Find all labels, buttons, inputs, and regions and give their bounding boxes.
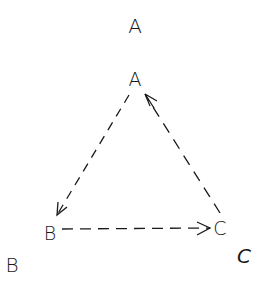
outer-label-c: C <box>237 246 251 266</box>
arrowhead-at-a-icon <box>145 94 157 108</box>
edge-a-to-b <box>57 95 129 215</box>
outer-label-a: A <box>128 16 142 36</box>
vertex-label-c: C <box>213 219 226 238</box>
edge-b-to-c <box>62 222 210 235</box>
triangle-diagram: A B C A B C <box>0 0 264 289</box>
arrowhead-at-b-icon <box>57 202 67 215</box>
diagram-canvas <box>0 0 264 289</box>
edge-c-to-a <box>145 94 220 213</box>
vertex-label-b: B <box>44 224 56 243</box>
outer-label-b: B <box>5 255 18 275</box>
vertex-label-a: A <box>129 70 142 89</box>
